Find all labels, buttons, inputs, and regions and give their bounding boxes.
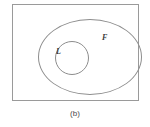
venn-diagram-figure: F L (b) [0,0,150,127]
universe-rectangle [12,4,139,101]
set-ellipse-f [38,19,142,95]
set-label-f: F [102,34,107,42]
set-label-l: L [56,48,61,56]
figure-caption: (b) [0,109,150,119]
